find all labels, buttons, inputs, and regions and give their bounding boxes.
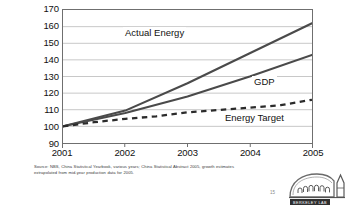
series-label-energy-target: Energy Target [223,112,286,123]
source-note: Source: NBS, China Statistical Yearbook,… [34,164,252,176]
y-tick-label: 110 [33,105,59,115]
chart-figure: 170 160 150 140 130 120 110 100 90 [0,0,355,213]
series-line-actual-energy [63,23,312,126]
x-tick-label: 2003 [163,147,213,159]
series-label-gdp: GDP [252,76,277,87]
berkeley-lab-logo: BERKELEY LAB [287,171,349,207]
y-tick-label: 100 [33,122,59,132]
y-tick-label: 140 [33,55,59,65]
y-tick-label: 120 [33,88,59,98]
x-tick-label: 2005 [288,147,338,159]
series-label-actual-energy: Actual Energy [123,27,186,38]
x-tick-label: 2001 [37,147,87,159]
y-tick-label: 130 [33,72,59,82]
logo-banner-text: BERKELEY LAB [293,201,327,205]
y-tick-label: 150 [33,38,59,48]
page-number: 15 [270,190,275,195]
y-axis-labels: 170 160 150 140 130 120 110 100 90 [30,9,59,144]
x-axis-labels: 2001 2002 2003 2004 2005 [62,147,313,161]
y-tick-label: 160 [33,21,59,31]
x-tick-label: 2002 [100,147,150,159]
y-tick-label: 170 [33,4,59,14]
x-tick-label: 2004 [225,147,275,159]
